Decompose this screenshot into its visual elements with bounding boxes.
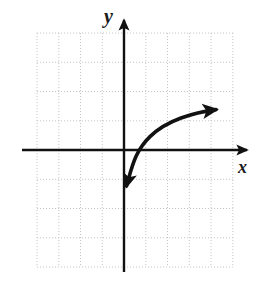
x-axis-label: x [238,158,247,176]
log-curve-asymptote-tail [127,179,129,187]
y-axis-label: y [104,6,113,26]
axes [22,20,247,272]
coordinate-plane [0,0,258,281]
log-curve-path [129,110,216,179]
graph-figure: y x [0,0,258,281]
